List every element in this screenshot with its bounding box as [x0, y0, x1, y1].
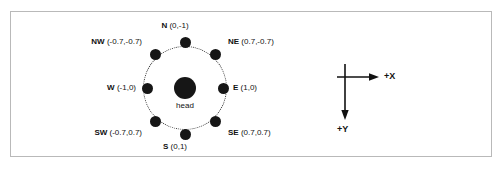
x-axis-arrowhead-icon: [369, 73, 379, 80]
axis-key: +X +Y: [0, 0, 503, 170]
y-axis-arrowhead-icon: [341, 110, 348, 120]
y-axis-label: +Y: [337, 124, 348, 135]
x-axis-label: +X: [384, 71, 395, 82]
axis-key-svg: [0, 0, 503, 170]
figure-screenshot: head N (0,-1) NE (0.7,-0.7) E (1,0) SE (…: [0, 0, 503, 170]
